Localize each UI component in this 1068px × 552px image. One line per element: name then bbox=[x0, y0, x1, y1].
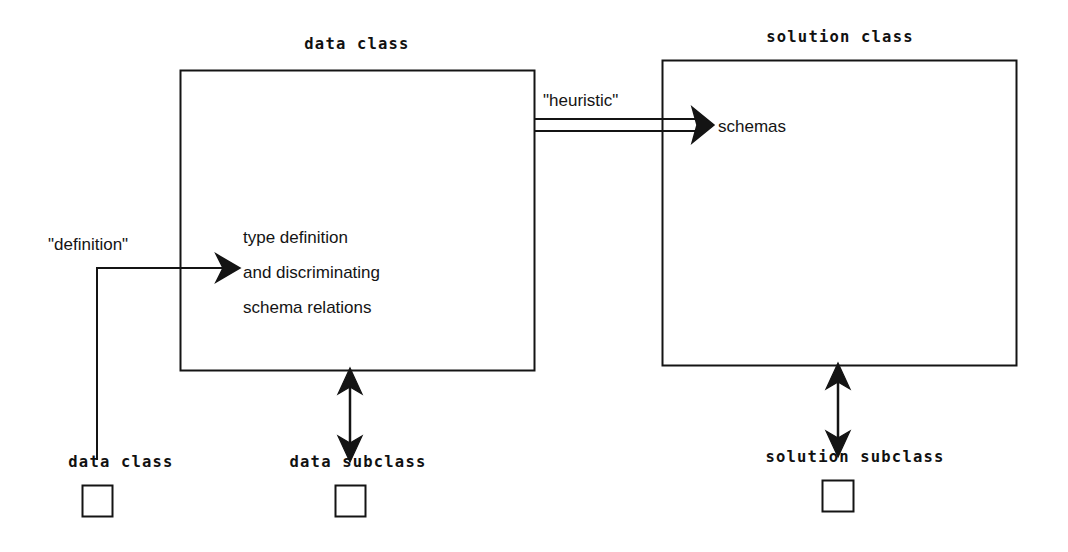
legend-square-solution-subclass[interactable] bbox=[823, 481, 854, 512]
data-class-body-line-2: and discriminating bbox=[243, 263, 380, 283]
diagram-canvas: data class solution class "heuristic" "d… bbox=[0, 0, 1068, 552]
heuristic-arrow-label: "heuristic" bbox=[543, 92, 618, 109]
data-class-body-text: type definition and discriminating schem… bbox=[243, 228, 380, 318]
legend-square-data-class[interactable] bbox=[83, 486, 113, 517]
heuristic-arrowhead bbox=[692, 107, 714, 143]
solution-class-box[interactable] bbox=[663, 61, 1017, 366]
data-class-body-line-1: type definition bbox=[243, 228, 380, 248]
definition-arrow[interactable] bbox=[97, 254, 240, 460]
legend-square-data-subclass[interactable] bbox=[336, 486, 366, 517]
legend-label-data-class: data class bbox=[68, 455, 173, 471]
solution-subclass-arrow[interactable] bbox=[826, 363, 850, 457]
data-class-box[interactable] bbox=[181, 71, 535, 371]
definition-arrow-label: "definition" bbox=[48, 236, 128, 253]
legend-label-solution-subclass: solution subclass bbox=[765, 450, 944, 466]
schemas-text: schemas bbox=[718, 118, 786, 135]
data-class-body-line-3: schema relations bbox=[243, 298, 380, 318]
heuristic-arrow[interactable] bbox=[534, 107, 714, 143]
data-class-caption: data class bbox=[304, 37, 409, 53]
solution-class-caption: solution class bbox=[766, 30, 913, 46]
data-subclass-arrow[interactable] bbox=[338, 368, 362, 462]
legend-label-data-subclass: data subclass bbox=[290, 455, 427, 471]
